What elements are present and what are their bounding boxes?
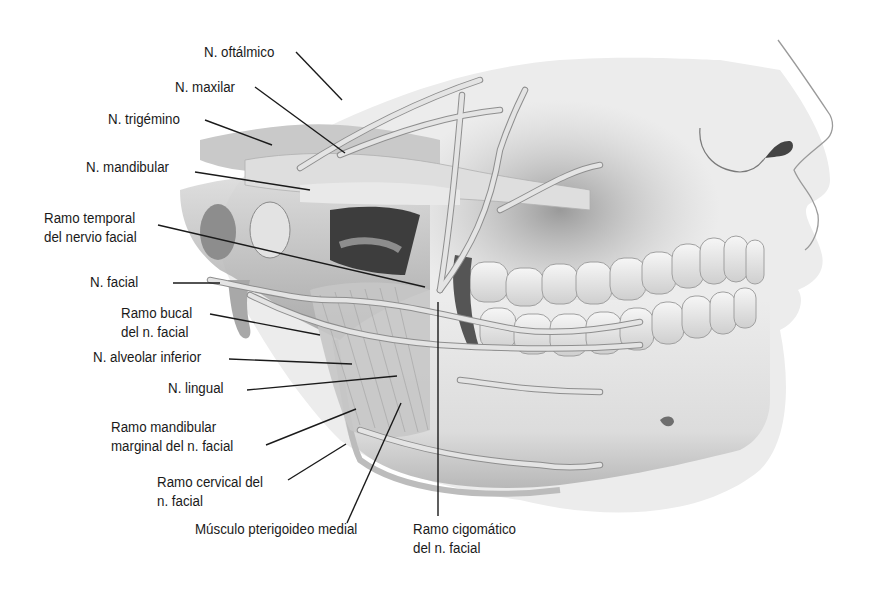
label-text: N. mandibular — [86, 157, 169, 176]
label-n-lingual: N. lingual — [168, 378, 224, 397]
jaw-illustration — [0, 0, 872, 599]
label-text: N. lingual — [168, 378, 224, 397]
label-n-facial: N. facial — [90, 272, 138, 291]
label-text: N. trigémino — [108, 109, 180, 128]
label-n-maxilar: N. maxilar — [175, 77, 235, 96]
label-text: Ramo cigomático — [413, 519, 516, 538]
anatomy-figure: N. oftálmico N. maxilar N. trigémino N. … — [0, 0, 872, 599]
label-text: n. facial — [157, 491, 263, 510]
leader-oftalmico — [296, 52, 342, 100]
label-text: del nervio facial — [44, 227, 137, 246]
label-n-oftalmico: N. oftálmico — [204, 42, 274, 61]
label-text: N. maxilar — [175, 77, 235, 96]
label-ramo-bucal: Ramo bucal del n. facial — [121, 303, 192, 341]
label-ramo-cervical: Ramo cervical del n. facial — [157, 472, 263, 510]
label-text: Ramo temporal — [44, 208, 137, 227]
label-text: N. facial — [90, 272, 138, 291]
label-text: Músculo pterigoideo medial — [195, 519, 357, 538]
label-text: N. alveolar inferior — [93, 347, 201, 366]
label-ramo-mandibular-marginal: Ramo mandibular marginal del n. facial — [111, 417, 233, 455]
label-n-trigemino: N. trigémino — [108, 109, 180, 128]
label-n-alveolar-inferior: N. alveolar inferior — [93, 347, 201, 366]
label-text: Ramo bucal — [121, 303, 192, 322]
label-ramo-cigomatico: Ramo cigomático del n. facial — [413, 519, 516, 557]
label-ramo-temporal: Ramo temporal del nervio facial — [44, 208, 137, 246]
leader-cervical — [288, 444, 346, 480]
label-text: Ramo cervical del — [157, 472, 263, 491]
label-text: Ramo mandibular — [111, 417, 233, 436]
label-text: del n. facial — [121, 322, 192, 341]
label-n-mandibular: N. mandibular — [86, 157, 169, 176]
label-text: del n. facial — [413, 538, 516, 557]
label-text: N. oftálmico — [204, 42, 274, 61]
label-text: marginal del n. facial — [111, 436, 233, 455]
label-musculo-pterigoideo-medial: Músculo pterigoideo medial — [195, 519, 357, 538]
